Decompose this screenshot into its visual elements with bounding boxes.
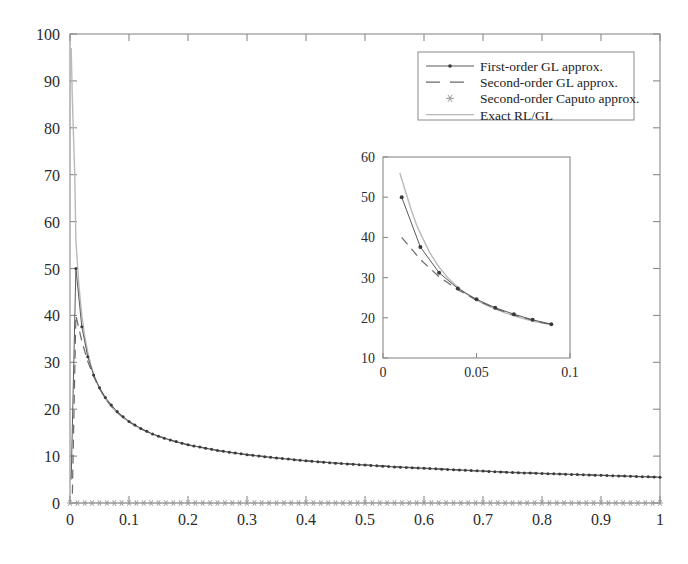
caputo-star-marker (236, 500, 242, 506)
first-order-marker (346, 462, 349, 465)
inset-y-tick-label: 40 (361, 230, 375, 245)
first-order-marker (653, 476, 656, 479)
first-order-marker (393, 465, 396, 468)
caputo-star-marker (96, 500, 102, 506)
first-order-marker (535, 472, 538, 475)
caputo-star-marker (340, 500, 346, 506)
first-order-marker (216, 449, 219, 452)
first-order-marker (387, 465, 390, 468)
first-order-marker (381, 465, 384, 468)
y-tick-label: 50 (44, 261, 60, 278)
inset-y-tick-label: 60 (361, 150, 375, 165)
inset-first-order-marker (456, 286, 460, 290)
x-tick-label: 1 (656, 511, 664, 528)
first-order-marker (417, 467, 420, 470)
caputo-star-marker (613, 500, 619, 506)
first-order-marker (659, 476, 662, 479)
first-order-marker (523, 471, 526, 474)
first-order-marker (281, 457, 284, 460)
y-tick-label: 60 (44, 214, 60, 231)
x-tick-label: 0.3 (237, 511, 257, 528)
y-tick-label: 80 (44, 120, 60, 137)
inset-first-order-marker (493, 306, 497, 310)
first-order-marker (452, 468, 455, 471)
caputo-star-marker (524, 500, 530, 506)
caputo-star-marker (229, 500, 235, 506)
first-order-marker (228, 451, 231, 454)
inset-curve-second-order-gl (402, 237, 552, 324)
first-order-marker (316, 460, 319, 463)
caputo-star-marker (384, 500, 390, 506)
caputo-star-marker (406, 500, 412, 506)
caputo-star-marker (89, 500, 95, 506)
first-order-marker (629, 475, 632, 478)
inset-y-tick-label: 10 (361, 351, 375, 366)
caputo-star-marker (259, 500, 265, 506)
y-tick-label: 0 (52, 495, 60, 512)
first-order-marker (352, 463, 355, 466)
x-tick-label: 0.9 (591, 511, 611, 528)
caputo-star-marker (354, 500, 360, 506)
caputo-star-marker (214, 500, 220, 506)
first-order-marker (446, 468, 449, 471)
first-order-marker (399, 466, 402, 469)
curve-second-order-gl (72, 315, 660, 493)
caputo-star-marker (472, 500, 478, 506)
caputo-star-marker (458, 500, 464, 506)
first-order-marker (80, 325, 83, 328)
caputo-star-marker (509, 500, 515, 506)
first-order-marker (470, 469, 473, 472)
caputo-star-marker (583, 500, 589, 506)
caputo-star-marker (118, 500, 124, 506)
caputo-star-marker (443, 500, 449, 506)
first-order-marker (588, 473, 591, 476)
first-order-marker (411, 466, 414, 469)
y-tick-label: 100 (36, 26, 60, 43)
first-order-marker (240, 452, 243, 455)
first-order-marker (617, 474, 620, 477)
first-order-marker (458, 468, 461, 471)
first-order-marker (175, 440, 178, 443)
legend-label: Second-order Caputo approx. (480, 91, 639, 106)
caputo-star-marker (436, 500, 442, 506)
first-order-marker (552, 472, 555, 475)
caputo-star-marker (148, 500, 154, 506)
inset-x-tick-label: 0.05 (464, 365, 489, 380)
first-order-marker (169, 438, 172, 441)
first-order-marker (151, 433, 154, 436)
legend-sample-dot (448, 64, 452, 68)
caputo-star-marker (332, 500, 338, 506)
caputo-star-marker (222, 500, 228, 506)
x-tick-label: 0.5 (355, 511, 375, 528)
legend-label: Exact RL/GL (480, 108, 553, 123)
first-order-marker (505, 471, 508, 474)
inset-first-order-marker (437, 271, 441, 275)
first-order-marker (210, 448, 213, 451)
caputo-star-marker (465, 500, 471, 506)
caputo-star-marker (642, 500, 648, 506)
first-order-marker (198, 446, 201, 449)
first-order-marker (310, 460, 313, 463)
y-tick-label: 20 (44, 401, 60, 418)
caputo-star-marker (310, 500, 316, 506)
first-order-marker (145, 430, 148, 433)
caputo-star-marker (170, 500, 176, 506)
y-tick-label: 10 (44, 448, 60, 465)
inset-first-order-marker (549, 322, 553, 326)
first-order-marker (511, 471, 514, 474)
caputo-star-marker (347, 500, 353, 506)
first-order-marker (358, 463, 361, 466)
x-tick-label: 0.6 (414, 511, 434, 528)
first-order-marker (487, 470, 490, 473)
first-order-marker (139, 427, 142, 430)
inset-y-tick-label: 30 (361, 271, 375, 286)
first-order-marker (582, 473, 585, 476)
first-order-marker (104, 396, 107, 399)
first-order-marker (541, 472, 544, 475)
caputo-star-marker (192, 500, 198, 506)
caputo-star-marker (428, 500, 434, 506)
first-order-marker (440, 468, 443, 471)
inset-first-order-marker (400, 195, 404, 199)
first-order-marker (499, 470, 502, 473)
caputo-star-marker (635, 500, 641, 506)
